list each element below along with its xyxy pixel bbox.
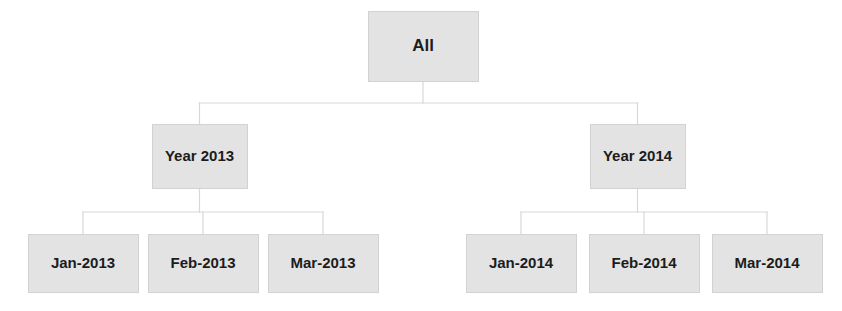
tree-node-feb-2013[interactable]: Feb-2013 bbox=[149, 235, 259, 293]
tree-diagram-canvas: AllYear 2013Year 2014Jan-2013Feb-2013Mar… bbox=[0, 0, 842, 311]
tree-node-jan-2014[interactable]: Jan-2014 bbox=[467, 235, 577, 293]
node-label-feb-2014: Feb-2014 bbox=[611, 254, 677, 271]
node-label-jan-2014: Jan-2014 bbox=[489, 254, 554, 271]
tree-node-year-2013[interactable]: Year 2013 bbox=[153, 125, 248, 189]
node-label-year-2014: Year 2014 bbox=[603, 147, 673, 164]
tree-diagram: AllYear 2013Year 2014Jan-2013Feb-2013Mar… bbox=[0, 0, 842, 311]
node-label-feb-2013: Feb-2013 bbox=[170, 254, 235, 271]
tree-node-feb-2014[interactable]: Feb-2014 bbox=[590, 235, 700, 293]
tree-node-year-2014[interactable]: Year 2014 bbox=[591, 125, 686, 189]
connector-group-year2014-to-months bbox=[521, 188, 767, 234]
node-label-all: All bbox=[412, 36, 434, 55]
node-label-year-2013: Year 2013 bbox=[165, 147, 234, 164]
tree-node-all[interactable]: All bbox=[369, 12, 479, 82]
node-layer: AllYear 2013Year 2014Jan-2013Feb-2013Mar… bbox=[29, 12, 823, 293]
node-label-jan-2013: Jan-2013 bbox=[51, 254, 115, 271]
tree-node-mar-2013[interactable]: Mar-2013 bbox=[269, 235, 379, 293]
tree-node-mar-2014[interactable]: Mar-2014 bbox=[713, 235, 823, 293]
node-label-mar-2014: Mar-2014 bbox=[734, 254, 800, 271]
connector-group-year2013-to-months bbox=[83, 188, 323, 234]
connector-group-all-to-years bbox=[200, 81, 638, 124]
node-label-mar-2013: Mar-2013 bbox=[290, 254, 355, 271]
tree-node-jan-2013[interactable]: Jan-2013 bbox=[29, 235, 139, 293]
